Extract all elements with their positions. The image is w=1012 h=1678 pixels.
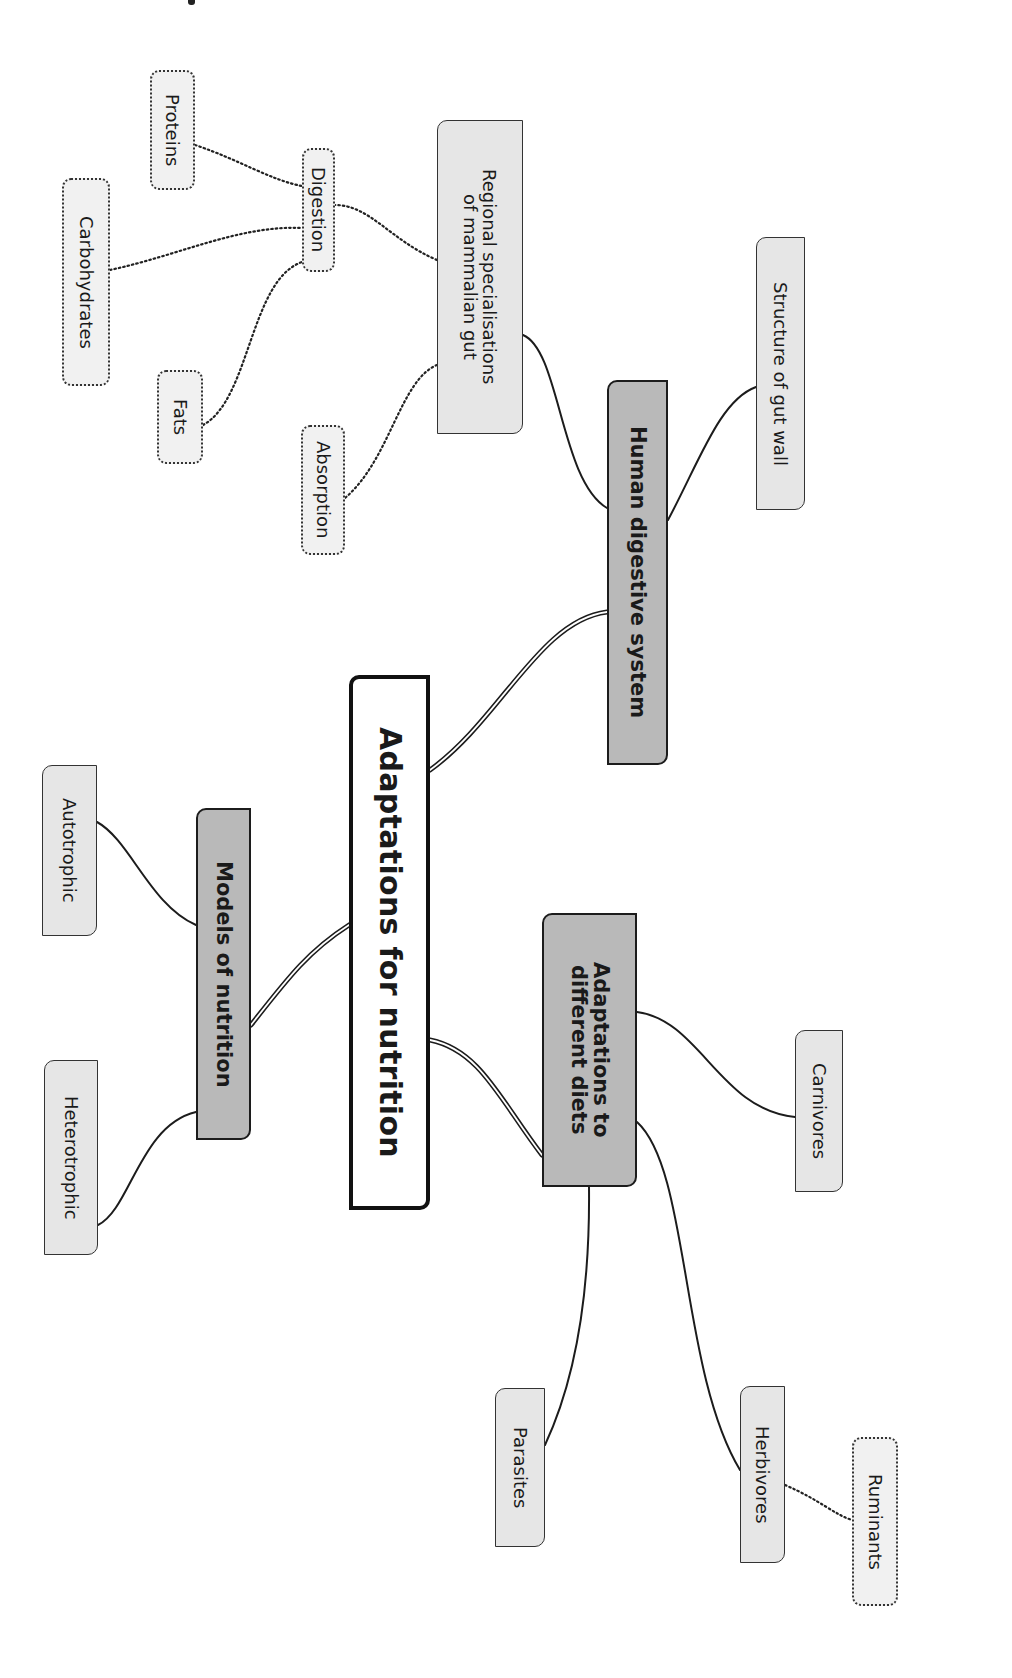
node-regional-specialisations[interactable]: Regional specialisations of mammalian gu… — [437, 120, 523, 434]
node-models-of-nutrition[interactable]: Models of nutrition — [196, 808, 251, 1140]
connector-fats — [203, 262, 302, 425]
node-label: Absorption — [313, 441, 332, 538]
node-label: Carbohydrates — [76, 216, 95, 349]
connector-parasites — [545, 1187, 589, 1445]
node-absorption[interactable]: Absorption — [301, 425, 345, 555]
node-label: Ruminants — [865, 1474, 884, 1570]
node-carbohydrates[interactable]: Carbohydrates — [62, 178, 110, 386]
connector-proteins — [195, 145, 302, 186]
node-label: Herbivores — [753, 1426, 772, 1524]
node-parasites[interactable]: Parasites — [495, 1388, 545, 1547]
node-label: Regional specialisations of mammalian gu… — [461, 169, 500, 384]
central-node[interactable]: Adaptations for nutrition — [349, 675, 430, 1210]
node-digestion[interactable]: Digestion — [302, 148, 335, 272]
node-label: Carnivores — [809, 1063, 828, 1159]
double-connector-human — [430, 612, 607, 770]
double-connector-models — [251, 925, 349, 1025]
connector-herbivores — [637, 1122, 740, 1470]
node-label: Models of nutrition — [212, 861, 235, 1088]
node-adaptations-to-different-diets[interactable]: Adaptations to different diets — [542, 913, 637, 1187]
node-label: Autotrophic — [60, 798, 79, 903]
connector-heterotrophic — [98, 1112, 196, 1225]
connector-absorption — [345, 365, 437, 498]
node-label: Heterotrophic — [61, 1096, 80, 1220]
connector-carnivores — [637, 1012, 795, 1117]
connector-regional — [523, 335, 607, 508]
node-autotrophic[interactable]: Autotrophic — [42, 765, 97, 936]
node-proteins[interactable]: Proteins — [150, 70, 195, 190]
connector-digestion — [335, 205, 437, 260]
connector-structure — [668, 387, 756, 520]
node-label: Parasites — [510, 1427, 529, 1508]
double-connector-diets — [430, 1040, 542, 1155]
node-herbivores[interactable]: Herbivores — [740, 1386, 785, 1563]
node-fats[interactable]: Fats — [157, 370, 203, 464]
node-heterotrophic[interactable]: Heterotrophic — [44, 1060, 98, 1255]
node-label: Structure of gut wall — [771, 282, 790, 466]
connector-carbohydrates — [110, 228, 302, 270]
node-label: Proteins — [163, 94, 182, 166]
node-label: Adaptations to different diets — [567, 962, 612, 1138]
central-node-label: Adaptations for nutrition — [373, 727, 405, 1158]
connector-autotrophic — [97, 822, 196, 925]
node-structure-of-gut-wall[interactable]: Structure of gut wall — [756, 237, 805, 510]
node-human-digestive-system[interactable]: Human digestive system — [607, 380, 668, 765]
node-label: Digestion — [309, 167, 328, 252]
node-label: Fats — [170, 399, 189, 435]
node-ruminants[interactable]: Ruminants — [852, 1437, 898, 1606]
connector-ruminants — [785, 1485, 852, 1520]
node-label: Human digestive system — [626, 426, 649, 718]
node-carnivores[interactable]: Carnivores — [795, 1030, 843, 1192]
